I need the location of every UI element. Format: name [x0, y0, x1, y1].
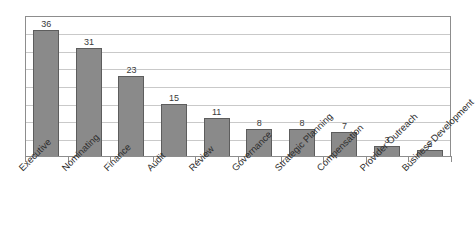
category-label-governance: Governance — [230, 129, 274, 173]
category-label-executive: Executive — [17, 137, 53, 173]
category-label-nominating: Nominating — [60, 132, 101, 173]
category-label-review: Review — [187, 144, 216, 173]
category-label-finance: Finance — [102, 142, 133, 173]
category-label-audit: Audit — [145, 151, 167, 173]
category-label-business-development: Business Development — [400, 97, 476, 173]
